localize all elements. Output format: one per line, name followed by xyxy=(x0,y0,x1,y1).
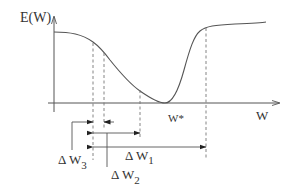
delta-w2-label: Δ W2 xyxy=(111,167,140,186)
error-surface-diagram: E(W) W W* Δ W3 Δ W2 Δ W1 xyxy=(0,0,291,193)
x-axis-label: W xyxy=(256,108,269,123)
delta-w1-symbol: Δ W xyxy=(125,148,149,163)
delta-w1-label: Δ W1 xyxy=(125,148,154,166)
delta-w2-subscript: 2 xyxy=(134,174,140,186)
y-axis-label: E(W) xyxy=(20,10,51,26)
minimum-label: W* xyxy=(168,112,184,124)
error-curve xyxy=(54,22,266,103)
delta-w2-symbol: Δ W xyxy=(111,167,135,182)
delta-w3-label: Δ W3 xyxy=(58,152,87,171)
delta-w3-subscript: 3 xyxy=(81,159,87,171)
delta-w1-subscript: 1 xyxy=(148,154,154,166)
delta-w3-symbol: Δ W xyxy=(58,152,82,167)
